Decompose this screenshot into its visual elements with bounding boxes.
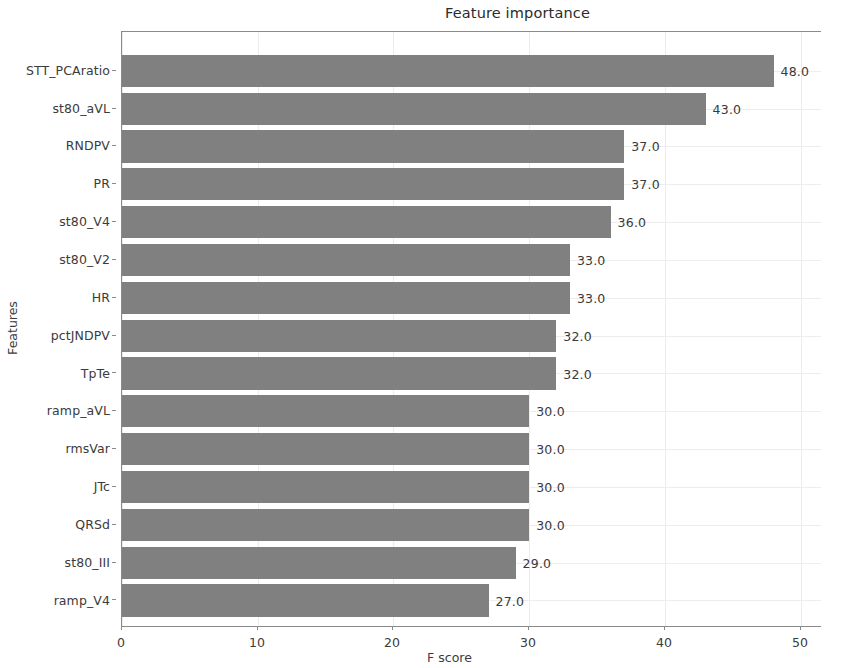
y-tick-label: st80_III — [65, 554, 110, 569]
x-tick-label: 10 — [249, 635, 265, 650]
y-tick-label: st80_V2 — [59, 252, 110, 267]
x-tick-mark — [800, 626, 801, 630]
x-tick-mark — [664, 626, 665, 630]
y-tick-mark — [112, 562, 116, 563]
bar-value-label: 30.0 — [536, 480, 565, 495]
bar-value-label: 30.0 — [536, 404, 565, 419]
bar-value-label: 33.0 — [577, 290, 606, 305]
y-tick-mark — [112, 524, 116, 525]
bar — [122, 320, 556, 352]
y-tick-mark — [112, 372, 116, 373]
chart-title-text: Feature importance — [445, 5, 590, 21]
bar — [122, 130, 624, 162]
y-tick-mark — [112, 335, 116, 336]
bar — [122, 471, 529, 503]
bar — [122, 93, 706, 125]
bar-value-label: 33.0 — [577, 253, 606, 268]
bar — [122, 584, 489, 616]
bar — [122, 509, 529, 541]
bar — [122, 55, 774, 87]
y-tick-label: STT_PCAratio — [26, 62, 110, 77]
x-tick-mark — [257, 626, 258, 630]
y-tick-label: JTc — [94, 479, 110, 494]
bar-value-label: 32.0 — [563, 366, 592, 381]
y-tick-mark — [112, 486, 116, 487]
chart-title: Feature importance — [0, 5, 859, 21]
x-tick-mark — [528, 626, 529, 630]
bar — [122, 357, 556, 389]
plot-area: 48.043.037.037.036.033.033.032.032.030.0… — [121, 31, 821, 627]
x-tick-label: 30 — [520, 635, 536, 650]
y-tick-mark — [112, 259, 116, 260]
bar — [122, 547, 516, 579]
x-tick-label: 20 — [384, 635, 400, 650]
plot-inner: 48.043.037.037.036.033.033.032.032.030.0… — [122, 32, 821, 626]
y-tick-label: st80_aVL — [52, 100, 110, 115]
y-axis-tick-labels: STT_PCAratiost80_aVLRNDPVPRst80_V4st80_V… — [0, 31, 110, 625]
y-tick-label: RNDPV — [66, 138, 110, 153]
x-tick-mark — [392, 626, 393, 630]
y-tick-label: PR — [94, 176, 110, 191]
bar — [122, 244, 570, 276]
y-tick-label: pctJNDPV — [51, 327, 110, 342]
bar — [122, 282, 570, 314]
x-tick-mark — [121, 626, 122, 630]
y-tick-mark — [112, 183, 116, 184]
bar-value-label: 37.0 — [631, 177, 660, 192]
y-tick-label: QRSd — [75, 516, 110, 531]
x-axis-label: F score — [121, 650, 820, 665]
x-gridline — [801, 32, 802, 626]
bar-value-label: 37.0 — [631, 139, 660, 154]
y-tick-label: ramp_aVL — [47, 403, 110, 418]
y-tick-mark — [112, 70, 116, 71]
y-tick-mark — [112, 297, 116, 298]
y-tick-label: rmsVar — [65, 441, 110, 456]
y-tick-mark — [112, 221, 116, 222]
bar-value-label: 48.0 — [781, 63, 810, 78]
bar-value-label: 43.0 — [713, 101, 742, 116]
bar-value-label: 27.0 — [496, 593, 525, 608]
bar — [122, 168, 624, 200]
y-tick-mark — [112, 448, 116, 449]
x-tick-label: 40 — [656, 635, 672, 650]
x-axis-label-text: F score — [427, 650, 472, 665]
bar-value-label: 30.0 — [536, 517, 565, 532]
y-tick-label: ramp_V4 — [54, 592, 110, 607]
y-tick-mark — [112, 410, 116, 411]
x-tick-label: 0 — [117, 635, 125, 650]
bar — [122, 395, 529, 427]
y-tick-mark — [112, 108, 116, 109]
y-tick-mark — [112, 145, 116, 146]
bar-value-label: 36.0 — [618, 215, 647, 230]
bar — [122, 206, 611, 238]
x-tick-label: 50 — [792, 635, 808, 650]
y-tick-mark — [112, 599, 116, 600]
y-tick-label: st80_V4 — [59, 214, 110, 229]
feature-importance-chart: Feature importance Features STT_PCAratio… — [0, 0, 859, 668]
y-tick-label: HR — [92, 289, 110, 304]
bar-value-label: 32.0 — [563, 328, 592, 343]
bar-value-label: 30.0 — [536, 442, 565, 457]
bar-value-label: 29.0 — [523, 555, 552, 570]
bar — [122, 433, 529, 465]
y-tick-label: TpTe — [81, 365, 110, 380]
